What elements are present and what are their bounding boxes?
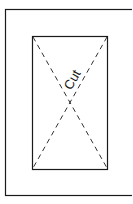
cut-diagram: Cut — [0, 0, 132, 204]
outer-frame — [6, 10, 133, 196]
cut-label: Cut — [61, 67, 84, 92]
